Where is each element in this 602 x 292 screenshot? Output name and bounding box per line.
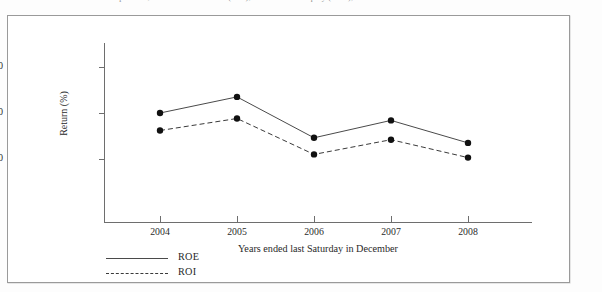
legend-swatch-roe	[106, 258, 168, 259]
y-tick-label-30: 30	[0, 62, 3, 72]
data-point-roe-2008	[465, 140, 471, 146]
legend-label-roi: ROI	[178, 266, 196, 277]
data-point-roe-2004	[157, 110, 163, 116]
data-point-roi-2007	[388, 137, 394, 143]
chart-plot-area: 10 20 30 2004 2005 2006 2007 2008 Return…	[8, 16, 569, 282]
data-point-roi-2008	[465, 154, 471, 160]
data-point-roi-2004	[157, 127, 163, 133]
exhibit-caption-text: Inter Corporation, Return on Investment …	[88, 0, 392, 2]
y-tick-label-10: 10	[0, 154, 3, 164]
exhibit-frame: 10 20 30 2004 2005 2006 2007 2008 Return…	[7, 15, 570, 283]
exhibit-caption: Inter Corporation, Return on Investment …	[0, 0, 602, 13]
chart-series-layer	[8, 16, 569, 282]
legend-item-roi: ROI	[106, 266, 306, 281]
y-tick-label-20: 20	[0, 108, 3, 118]
data-point-roe-2006	[311, 135, 317, 141]
data-point-roi-2005	[234, 115, 240, 121]
legend-item-roe: ROE	[106, 251, 306, 266]
data-point-roe-2007	[388, 117, 394, 123]
legend-label-roe: ROE	[178, 251, 199, 262]
series-points-roe	[157, 94, 471, 146]
scanned-page: Inter Corporation, Return on Investment …	[0, 0, 602, 292]
chart-legend: ROE ROI	[106, 251, 306, 281]
data-point-roe-2005	[234, 94, 240, 100]
data-point-roi-2006	[311, 151, 317, 157]
legend-swatch-roi	[106, 273, 168, 274]
